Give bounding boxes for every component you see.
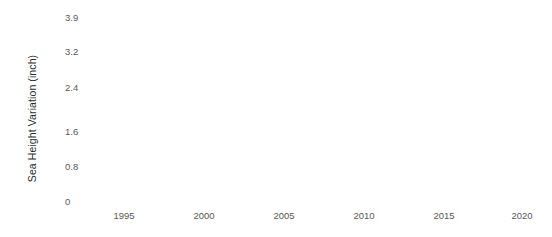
x-axis-tick-label: 2005 bbox=[273, 211, 294, 221]
y-axis-tick-label: 0 bbox=[65, 197, 70, 207]
x-axis-tick-label: 2015 bbox=[433, 211, 454, 221]
y-axis-title-label: Sea Height Variation (inch) bbox=[27, 55, 38, 182]
x-axis-tick-label: 2020 bbox=[511, 211, 532, 221]
x-axis-tick-label: 2010 bbox=[353, 211, 374, 221]
y-axis-tick-label: 2.4 bbox=[65, 83, 78, 93]
y-axis-tick-label: 1.6 bbox=[65, 127, 78, 137]
chart-container: Sea Height Variation (inch) 3.93.22.41.6… bbox=[0, 0, 552, 237]
y-axis-tick-label: 3.2 bbox=[65, 47, 78, 57]
x-axis-tick-label: 2000 bbox=[193, 211, 214, 221]
y-axis-title: Sea Height Variation (inch) bbox=[19, 0, 39, 237]
y-axis-tick-label: 0.8 bbox=[65, 162, 78, 172]
y-axis-tick-label: 3.9 bbox=[65, 13, 78, 23]
x-axis-tick-label: 1995 bbox=[113, 211, 134, 221]
plot-area bbox=[88, 8, 544, 208]
